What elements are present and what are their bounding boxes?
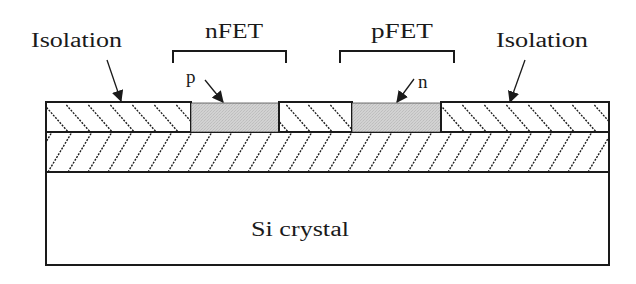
isolation-block-left <box>46 102 191 132</box>
p-region-arrow <box>205 80 223 102</box>
nfet-label: nFET <box>205 20 263 42</box>
top-layer <box>46 102 609 132</box>
n-region-arrow <box>397 79 414 102</box>
pfet-bracket <box>340 51 454 63</box>
isolation-left-label: Isolation <box>31 29 122 51</box>
pfet-label: pFET <box>371 20 433 43</box>
p-active-region <box>191 103 279 132</box>
isolation-block-right <box>441 102 609 132</box>
isolation-right-arrow <box>510 60 525 102</box>
n-active-region <box>352 103 441 132</box>
fet-cross-section-diagram: Isolation Isolation nFET pFET p n Si cry… <box>0 0 636 284</box>
n-region-label: n <box>418 71 428 92</box>
isolation-left-arrow <box>107 60 121 101</box>
substrate-label: Si crystal <box>251 218 350 241</box>
buried-layer <box>46 132 609 172</box>
p-region-label: p <box>186 66 196 87</box>
isolation-right-label: Isolation <box>496 29 588 51</box>
nfet-bracket <box>173 51 286 63</box>
isolation-block-middle <box>279 102 352 132</box>
